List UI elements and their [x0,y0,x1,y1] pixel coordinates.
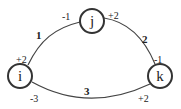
edge-i-k-end-k: +2 [138,94,149,104]
edge-i-k [32,82,150,98]
edge-i-j-end-j: -1 [62,12,70,22]
edge-i-k-weight: 3 [84,86,90,96]
node-i-label: i [8,68,32,84]
node-j-label: j [80,13,104,29]
edge-j-k-end-j: +2 [108,11,119,21]
edge-i-j-end-i: +2 [16,55,27,65]
edge-j-k-weight: 2 [142,34,148,44]
node-k-label: k [148,68,172,84]
edge-j-k-end-k: -1 [154,55,162,65]
edge-i-j-weight: 1 [36,30,42,40]
edge-i-k-end-i: -3 [30,94,38,104]
